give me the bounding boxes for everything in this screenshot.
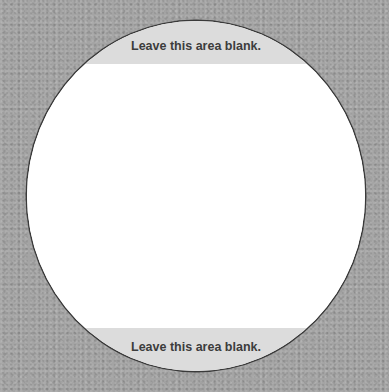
top-blank-band: Leave this area blank.	[27, 21, 365, 64]
label-disc: Leave this area blank. Leave this area b…	[27, 21, 365, 371]
bottom-blank-band: Leave this area blank.	[27, 328, 365, 371]
bottom-blank-text: Leave this area blank.	[131, 340, 261, 354]
top-blank-text: Leave this area blank.	[131, 39, 261, 53]
writable-area	[27, 64, 365, 328]
